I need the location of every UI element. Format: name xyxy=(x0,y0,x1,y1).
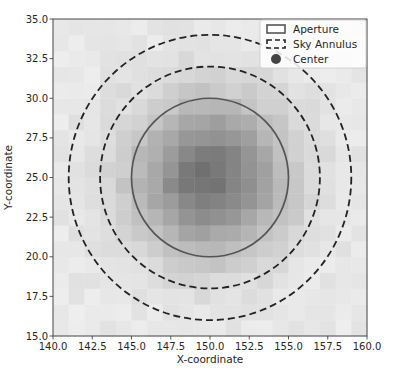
y-tick-label: 35.0 xyxy=(26,14,48,25)
x-tick-label: 145.0 xyxy=(117,341,146,352)
legend-label-center: Center xyxy=(293,53,329,65)
x-tick-label: 140.0 xyxy=(39,341,68,352)
y-tick-label: 27.5 xyxy=(26,132,48,143)
y-tick-label: 22.5 xyxy=(26,212,48,223)
x-axis-title: X-coordinate xyxy=(177,353,243,365)
x-tick-label: 152.5 xyxy=(235,341,264,352)
y-tick-label: 32.5 xyxy=(26,53,48,64)
y-tick-label: 15.0 xyxy=(26,331,48,342)
chart: 140.0142.5145.0147.5150.0152.5155.0157.5… xyxy=(0,0,394,379)
x-tick-label: 160.0 xyxy=(353,341,382,352)
x-tick-label: 150.0 xyxy=(196,341,225,352)
legend: Aperture Sky Annulus Center xyxy=(260,20,366,68)
y-tick-label: 25.0 xyxy=(26,172,48,183)
x-tick-label: 142.5 xyxy=(78,341,107,352)
y-axis: 15.017.520.022.525.027.530.032.535.0 xyxy=(26,14,53,342)
legend-label-sky-annulus: Sky Annulus xyxy=(293,38,357,50)
y-tick-label: 30.0 xyxy=(26,93,48,104)
center-legend-icon xyxy=(271,54,281,64)
x-tick-label: 155.0 xyxy=(274,341,303,352)
y-tick-label: 17.5 xyxy=(26,291,48,302)
x-tick-label: 147.5 xyxy=(156,341,185,352)
x-axis: 140.0142.5145.0147.5150.0152.5155.0157.5… xyxy=(39,336,382,352)
y-axis-title: Y-coordinate xyxy=(2,145,14,211)
x-tick-label: 157.5 xyxy=(313,341,342,352)
y-tick-label: 20.0 xyxy=(26,251,48,262)
legend-label-aperture: Aperture xyxy=(293,23,339,35)
